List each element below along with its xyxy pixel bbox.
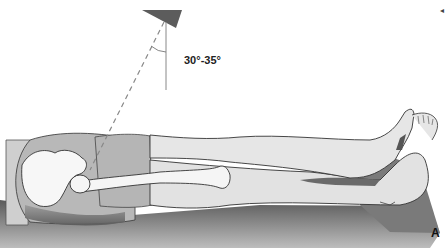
angle-label: 30°-35° [184, 54, 221, 66]
panel-letter: A [431, 226, 440, 240]
shorts [95, 134, 152, 207]
corner-mark-icon: ◂ [440, 6, 444, 15]
angle-arc [151, 46, 166, 52]
hip-positioning-illustration: 30°-35° A ◂ [0, 0, 447, 248]
illustration-canvas [0, 0, 447, 248]
